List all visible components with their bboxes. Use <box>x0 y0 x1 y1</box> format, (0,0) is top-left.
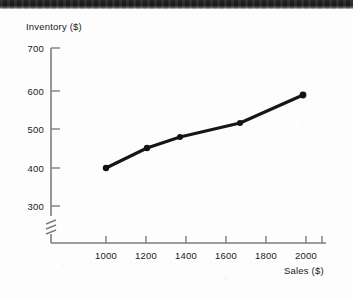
data-point-1400 <box>177 134 183 140</box>
data-point-1000 <box>103 165 109 171</box>
data-series-line <box>106 95 303 168</box>
chart-page: Inventory ($) Sales ($) 700 600 500 400 … <box>0 0 353 299</box>
y-axis-ticks <box>51 48 60 206</box>
data-point-1200 <box>144 145 150 151</box>
line-chart-canvas <box>0 0 353 299</box>
x-axis-ticks <box>106 236 322 243</box>
y-axis-break-icon <box>46 220 56 234</box>
data-point-2030 <box>300 92 307 99</box>
data-point-1700 <box>237 120 243 126</box>
